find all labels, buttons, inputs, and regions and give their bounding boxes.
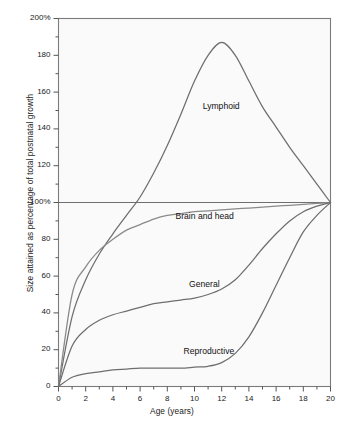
y-tick-label: 60 bbox=[0, 271, 51, 280]
y-tick-label: 40 bbox=[0, 307, 51, 316]
y-tick-label: 0 bbox=[0, 381, 51, 390]
x-tick-label: 20 bbox=[311, 394, 344, 403]
curve-label-general: General bbox=[189, 279, 220, 289]
y-tick-label: 160 bbox=[0, 87, 51, 96]
chart-canvas bbox=[0, 0, 344, 433]
y-tick-label: 140 bbox=[0, 123, 51, 132]
x-axis-title: Age (years) bbox=[0, 406, 344, 416]
y-tick-label: 120 bbox=[0, 160, 51, 169]
curve-label-reproductive: Reproductive bbox=[184, 346, 235, 356]
y-tick-label: 100% bbox=[0, 197, 51, 206]
growth-curves-chart: Size attained as percentage of total pos… bbox=[0, 0, 344, 433]
y-tick-label: 20 bbox=[0, 344, 51, 353]
y-axis-title: Size attained as percentage of total pos… bbox=[25, 33, 35, 353]
y-tick-label: 180 bbox=[0, 50, 51, 59]
curve-label-lymphoid: Lymphoid bbox=[203, 101, 240, 111]
y-tick-label: 200% bbox=[0, 13, 51, 22]
y-tick-label: 80 bbox=[0, 234, 51, 243]
curve-label-brain-and-head: Brain and head bbox=[176, 211, 234, 221]
